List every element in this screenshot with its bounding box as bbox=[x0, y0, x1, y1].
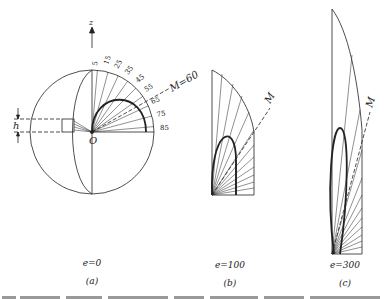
panel-b bbox=[212, 70, 270, 195]
svg-text:25: 25 bbox=[113, 58, 124, 70]
mach-label-c: M bbox=[363, 95, 377, 110]
meridian-ellipse bbox=[73, 70, 93, 194]
panel-label-c: (c) bbox=[339, 278, 352, 288]
envelope-c bbox=[332, 9, 362, 130]
condition-a: e=0 bbox=[83, 258, 102, 268]
panel-a bbox=[14, 27, 170, 194]
mach-line-c bbox=[332, 112, 370, 254]
svg-text:75: 75 bbox=[156, 110, 166, 119]
height-label: h bbox=[13, 120, 19, 131]
svg-text:5: 5 bbox=[91, 61, 100, 67]
z-arrowhead-icon bbox=[90, 27, 95, 33]
figure: z O h M=60 5 15 25 35 45 55 65 75 85 e=0… bbox=[0, 0, 385, 299]
z-axis-label: z bbox=[88, 18, 94, 27]
condition-c: e=300 bbox=[330, 260, 360, 270]
svg-text:45: 45 bbox=[134, 73, 146, 85]
h-arrowhead-bottom-icon bbox=[17, 132, 20, 136]
envelope-b bbox=[212, 70, 254, 132]
ray-fan-b bbox=[212, 74, 254, 195]
origin-dot bbox=[90, 130, 93, 133]
h-arrowhead-top-icon bbox=[17, 115, 20, 119]
svg-text:85: 85 bbox=[160, 124, 169, 132]
origin-label: O bbox=[89, 135, 97, 146]
mach-label-a: M=60 bbox=[167, 68, 201, 94]
mach-label-b: M bbox=[262, 90, 278, 106]
svg-text:15: 15 bbox=[102, 55, 113, 66]
panel-label-a: (a) bbox=[86, 276, 99, 286]
svg-text:55: 55 bbox=[143, 82, 155, 93]
mach-line-b bbox=[212, 108, 270, 195]
svg-text:35: 35 bbox=[123, 64, 135, 76]
svg-text:65: 65 bbox=[150, 95, 161, 106]
bold-loop-b bbox=[212, 136, 236, 195]
condition-b: e=100 bbox=[215, 260, 245, 270]
panel-c bbox=[330, 9, 370, 254]
panel-label-b: (b) bbox=[224, 278, 237, 288]
angle-labels: 5 15 25 35 45 55 65 75 85 bbox=[91, 55, 169, 132]
